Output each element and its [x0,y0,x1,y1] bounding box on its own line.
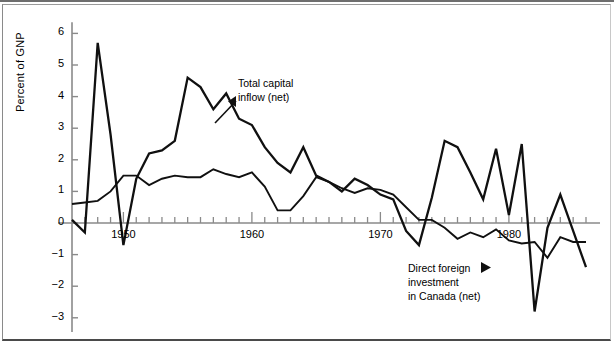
annotation-direct-line-3: in Canada (net) [408,289,480,303]
plot-area [0,0,614,345]
y-tick-label: 3 [40,120,64,132]
y-tick-label: 1 [40,183,64,195]
annotation-total-line-1: Total capital [238,76,293,90]
annotation-total-line-2: inflow (net) [238,90,293,104]
x-tick-label: 1950 [100,228,146,240]
annotation-total-capital-inflow: Total capital inflow (net) [238,76,293,104]
annotation-direct-foreign-investment: Direct foreign investment in Canada (net… [408,261,480,303]
x-tick-label: 1980 [486,228,532,240]
y-tick-label: 6 [40,25,64,37]
series-total-capital-inflow [72,43,586,312]
y-tick-label: −3 [40,310,64,322]
x-tick-label: 1970 [357,228,403,240]
annotation-direct-leader [481,262,491,273]
y-tick-label: 5 [40,57,64,69]
annotation-total-leader [215,96,236,123]
y-tick-label: 2 [40,152,64,164]
y-tick-label: 0 [40,215,64,227]
x-tick-label: 1960 [229,228,275,240]
y-tick-label: 4 [40,89,64,101]
annotation-direct-line-1: Direct foreign [408,261,480,275]
chart-figure: Percent of GNP 6543210−1−2−3 19501960197… [0,0,614,345]
annotation-direct-line-2: investment [408,275,480,289]
y-tick-label: −2 [40,278,64,290]
y-tick-label: −1 [40,247,64,259]
